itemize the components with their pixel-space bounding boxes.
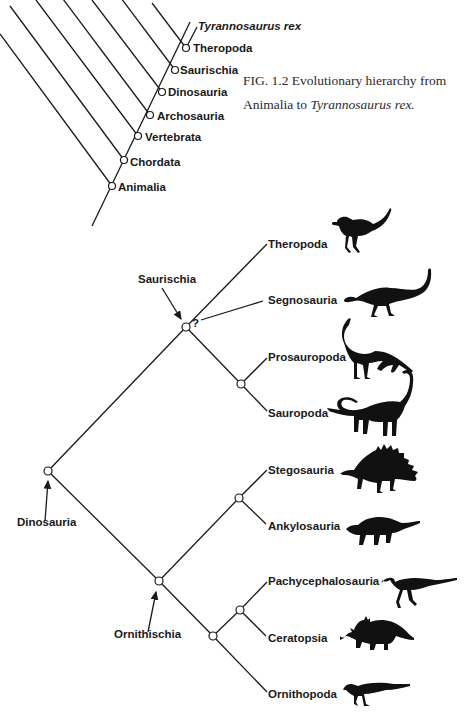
- branch-chordata: [10, 6, 124, 160]
- branch-sauropoda: [241, 384, 267, 411]
- caption-line-2-prefix: Animalia to: [243, 97, 311, 112]
- node-theropoda: [183, 45, 190, 52]
- branch-marginocephalia: [213, 610, 240, 636]
- branch-thyreophora: [159, 498, 239, 581]
- tip-label-theropoda: Theropoda: [268, 238, 328, 250]
- node-sauropodomorpha: [237, 380, 245, 388]
- arrow-saurischia: [162, 288, 181, 319]
- label-ornithischia-clade: Ornithischia: [114, 628, 182, 640]
- node-ornithischia: [155, 577, 163, 585]
- branch-theropoda: [186, 244, 267, 327]
- tip-label-stegosauria: Stegosauria: [268, 464, 334, 476]
- branch-root-saurischia: [48, 327, 186, 471]
- arrow-ornithischia: [148, 592, 156, 632]
- branch-sauropodomorpha: [186, 327, 241, 384]
- tip-label-sauropoda: Sauropoda: [268, 407, 329, 419]
- branch-segnosauria: [201, 301, 263, 320]
- figure-caption: FIG. 1.2 Evolutionary hierarchy from Ani…: [243, 69, 468, 117]
- node-saurischia: [172, 67, 179, 74]
- tip-label-prosauropoda: Prosauropoda: [268, 351, 347, 363]
- branch-dinosauria: [92, 0, 162, 92]
- label-theropoda: Theropoda: [193, 42, 253, 54]
- node-dinosauria: [44, 467, 52, 475]
- branch-ceratopsia: [240, 610, 266, 636]
- node-dinosauria: [159, 89, 166, 96]
- uncertain-mark: ?: [192, 317, 199, 329]
- branch-animalia: [0, 34, 112, 186]
- label-tyrannosaurus-rex: Tyrannosaurus rex: [198, 20, 302, 32]
- node-vertebrata: [135, 133, 142, 140]
- node-animalia: [109, 183, 116, 190]
- label-dinosauria-root: Dinosauria: [17, 516, 77, 528]
- tip-label-ceratopsia: Ceratopsia: [268, 632, 328, 644]
- node-chordata: [121, 157, 128, 164]
- caption-species-name: Tyrannosaurus rex.: [311, 97, 415, 112]
- branch-stegosauria: [239, 470, 267, 498]
- caption-line-1: FIG. 1.2 Evolutionary hierarchy from: [243, 69, 468, 93]
- branch-theropoda: [152, 3, 186, 48]
- node-marginocephalia: [236, 606, 244, 614]
- arrow-dinosauria: [45, 481, 48, 521]
- label-chordata: Chordata: [130, 156, 181, 168]
- theropod-silhouette: [332, 208, 391, 253]
- ceratopsian-silhouette: [340, 616, 414, 650]
- tip-label-ankylosauria: Ankylosauria: [268, 520, 341, 532]
- dinosaur-tree: ? Saurischia Dinosauria Ornithischia The…: [17, 208, 457, 706]
- tip-label-segnosauria: Segnosauria: [268, 294, 338, 306]
- label-archosauria: Archosauria: [157, 110, 225, 122]
- label-animalia: Animalia: [118, 181, 167, 193]
- branch-ankylosauria: [239, 498, 266, 524]
- node-cerapoda: [209, 632, 217, 640]
- caption-line-2: Animalia to Tyrannosaurus rex.: [243, 93, 468, 117]
- sauropod-silhouette: [327, 370, 413, 436]
- tip-label-ornithopoda: Ornithopoda: [268, 688, 338, 700]
- label-dinosauria: Dinosauria: [168, 86, 228, 98]
- ankylosaur-silhouette: [346, 517, 420, 545]
- branch-ornithopoda: [213, 636, 267, 692]
- label-vertebrata: Vertebrata: [145, 131, 202, 143]
- segnosaur-silhouette: [344, 269, 431, 318]
- tip-label-pachycephalosauria: Pachycephalosauria: [268, 575, 380, 587]
- ornithopod-silhouette: [343, 683, 410, 706]
- node-thyreophora: [235, 494, 243, 502]
- trunk-line: [92, 22, 190, 226]
- node-saurischia: [182, 323, 190, 331]
- node-archosauria: [147, 112, 154, 119]
- label-saurischia: Saurischia: [180, 64, 239, 76]
- pachycephalosaur-silhouette: [381, 578, 457, 608]
- branch-pachycephalosauria: [240, 582, 267, 610]
- branch-prosauropoda: [241, 358, 267, 384]
- branch-saurischia: [121, 0, 175, 70]
- branch-vertebrata: [36, 0, 138, 136]
- prosauropod-silhouette: [342, 318, 413, 379]
- stegosaur-silhouette: [340, 444, 418, 493]
- label-saurischia-clade: Saurischia: [138, 273, 197, 285]
